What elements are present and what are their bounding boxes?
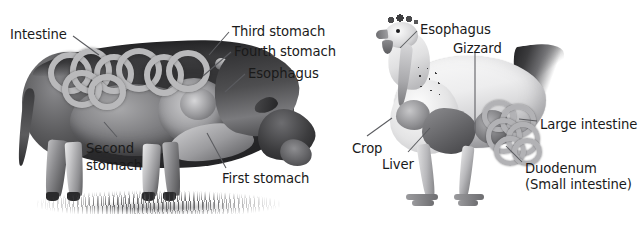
leader-first-stomach bbox=[207, 133, 226, 168]
anatomy-figure: Intestine Third stomach Fourth stomach E… bbox=[0, 0, 642, 228]
label-duodenum: Duodenum bbox=[525, 161, 597, 177]
leader-liver bbox=[408, 128, 430, 152]
label-large-intestine: Large intestine bbox=[540, 117, 637, 133]
leader-fourth-stomach bbox=[203, 52, 231, 76]
label-second-stomach-line1: Second bbox=[86, 141, 134, 156]
label-fourth-stomach: Fourth stomach bbox=[234, 44, 336, 60]
leader-third-stomach bbox=[209, 32, 229, 55]
label-crop: Crop bbox=[352, 141, 382, 157]
leader-esophagus-cow bbox=[225, 74, 245, 92]
label-third-stomach: Third stomach bbox=[232, 24, 325, 40]
leader-intestine bbox=[73, 36, 99, 55]
label-esophagus-chicken: Esophagus bbox=[420, 22, 491, 38]
label-second-stomach-line2: stomach bbox=[86, 158, 142, 173]
label-second-stomach: Secondstomach bbox=[86, 140, 156, 174]
label-small-intestine: (Small intestine) bbox=[525, 177, 632, 193]
label-esophagus-cow: Esophagus bbox=[248, 66, 319, 82]
label-first-stomach: First stomach bbox=[222, 171, 309, 187]
leader-crop bbox=[367, 118, 392, 136]
leader-large-intestine bbox=[519, 119, 537, 121]
label-gizzard: Gizzard bbox=[453, 41, 502, 57]
label-intestine: Intestine bbox=[10, 27, 67, 43]
leader-second-stomach bbox=[104, 122, 117, 137]
leader-duodenum bbox=[506, 146, 522, 162]
leader-esophagus-chicken bbox=[400, 31, 417, 48]
label-liver: Liver bbox=[382, 157, 414, 173]
